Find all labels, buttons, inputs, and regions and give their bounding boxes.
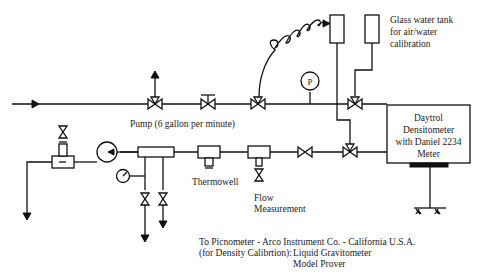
outlet-arrow-icon [23,213,31,220]
glass-tank-label-1: Glass water tank [390,15,454,25]
three-way-valve-vent[interactable] [148,71,162,109]
three-way-valve-tank[interactable] [348,97,362,109]
coil-hose [259,20,330,97]
densitometer-label-3: with Daniel 2234 [396,137,462,147]
picnometer-label-2: (for Density Calibrtion): [199,248,292,259]
densitometer-label-1: Daytrol [414,113,443,123]
pump-label: Pump (6 gallon per minute) [130,119,235,130]
glass-tank-label-3: calibration [390,39,431,49]
main-supply-line [12,100,387,108]
flow-label-1: Flow [254,193,274,203]
pressure-gauge: P [301,72,319,104]
drain-valve-1[interactable] [141,193,149,242]
three-way-valve-lower[interactable] [343,144,357,157]
flow-label-2: Measurement [254,204,306,214]
thermowell-label: Thermowell [192,177,239,187]
flow-meter [248,146,270,181]
gate-valve-lower[interactable] [298,147,312,157]
pressure-gauge-label: P [307,77,312,87]
vent-arrow-icon [151,71,159,78]
gate-valve-main[interactable] [201,95,215,109]
drain-arrow-2-icon [159,221,167,228]
coil-arrow-icon [323,20,330,27]
picnometer-label-3: Model Prover [293,259,346,269]
glass-tank-label-2: for air/water [390,27,438,37]
pump [97,142,138,162]
thermowell [198,146,220,168]
inlet-arrow-icon [32,100,39,108]
small-gauge [117,170,146,183]
manifold [138,147,174,190]
process-flow-diagram: P Glass water tank for air/water calibra… [0,0,483,278]
glass-water-tank [355,15,379,96]
ground-icon [414,208,446,214]
densitometer-label-2: Densitometer [403,125,455,135]
densitometer-label-4: Meter [417,149,441,159]
sample-point [23,126,97,220]
picnometer-label-2-value: Liquid Gravitometer [293,248,372,258]
three-way-valve-coil[interactable] [251,97,265,109]
drain-valve-2[interactable] [159,193,167,228]
densitometer: Daytrol Densitometer with Daniel 2234 Me… [387,105,470,214]
tank-1 [330,15,350,144]
picnometer-label-1: To Picnometer - Arco Instrument Co. - Ca… [199,237,415,247]
drain-arrow-1-icon [141,235,149,242]
